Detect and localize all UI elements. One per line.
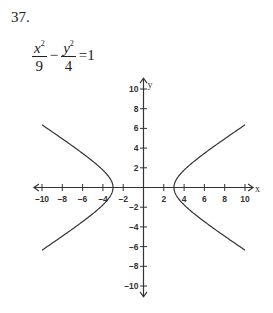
y-tick-label: 10 [129, 84, 139, 94]
y-tick-label: 4 [134, 143, 139, 153]
y-tick-label: –4 [129, 222, 139, 232]
x-axis-label: x [255, 183, 260, 194]
x-tick-label: –10 [35, 194, 49, 204]
x-tick-label: 6 [202, 194, 207, 204]
x-tick-label: 2 [161, 194, 166, 204]
y-tick-label: 8 [134, 104, 139, 114]
y-tick-label: –8 [129, 261, 139, 271]
y-tick-label: –2 [129, 202, 139, 212]
x-tick-label: –2 [118, 194, 128, 204]
y-tick-label: –10 [124, 281, 138, 291]
x-tick-label: 8 [222, 194, 227, 204]
x-tick-label: 10 [240, 194, 250, 204]
x-tick-label: –6 [78, 194, 88, 204]
y-tick-label: –6 [129, 242, 139, 252]
y-tick-label: 2 [134, 163, 139, 173]
y-tick-label: 6 [134, 123, 139, 133]
y-axis-label: y [148, 79, 153, 90]
x-tick-label: 4 [182, 194, 187, 204]
hyperbola-plot: –10–8–6–4–2246810–10–8–6–4–2246810xy [0, 0, 273, 313]
x-tick-label: –8 [58, 194, 68, 204]
